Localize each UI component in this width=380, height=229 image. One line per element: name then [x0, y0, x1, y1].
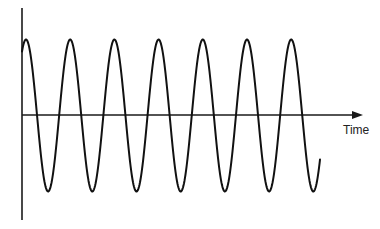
x-axis-label: Time	[343, 123, 370, 137]
sine-wave-diagram: Time	[0, 0, 380, 229]
arrow-head-icon	[352, 111, 363, 119]
